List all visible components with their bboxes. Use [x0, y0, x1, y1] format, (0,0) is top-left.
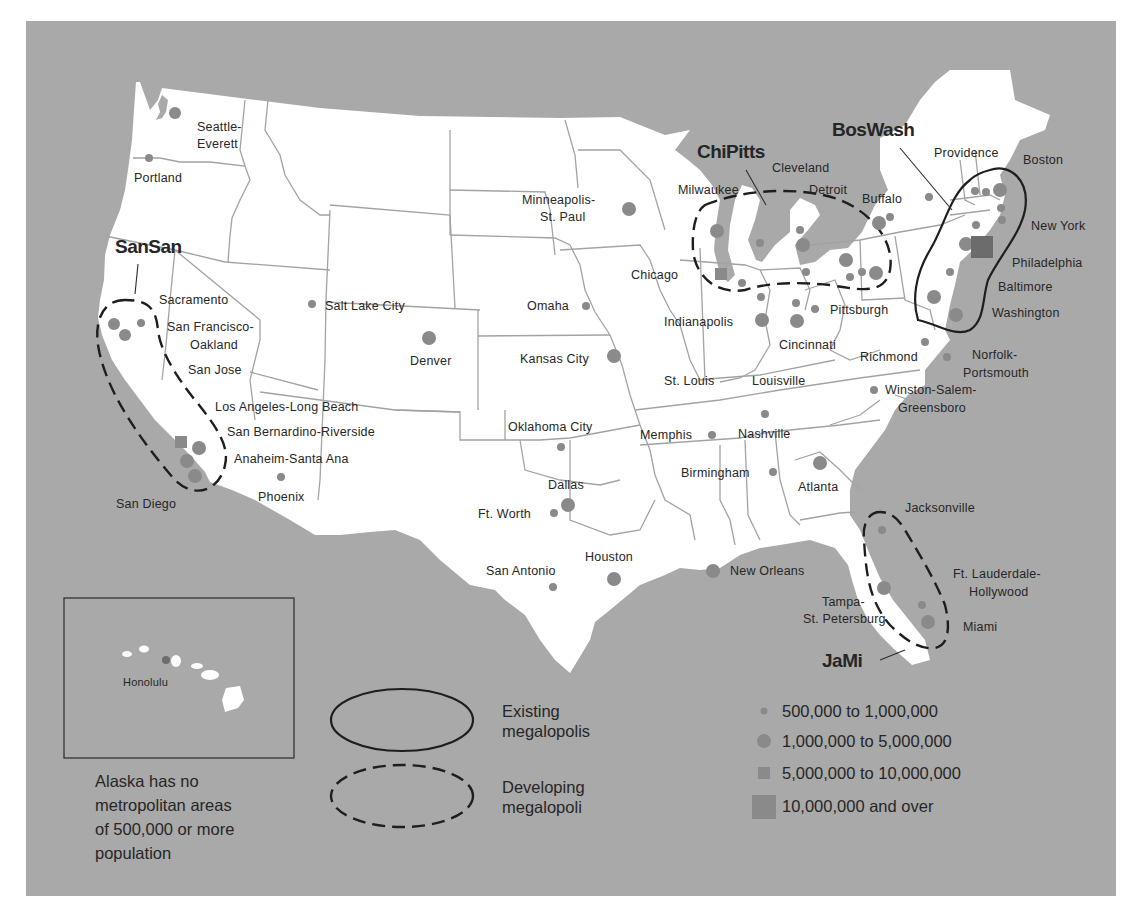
- dot-gary: [738, 279, 746, 287]
- label-st-louis: St. Louis: [664, 374, 714, 388]
- label-chicago: Chicago: [631, 268, 678, 282]
- label-indianapolis: Indianapolis: [664, 315, 733, 329]
- dot-birmingham: [769, 468, 777, 476]
- dot-milwaukee: [710, 224, 724, 238]
- dot-new-york: [971, 236, 993, 258]
- svg-text:of 500,000 or more: of 500,000 or more: [95, 820, 234, 838]
- label-boston: Boston: [1023, 153, 1063, 167]
- label-sf-2: Oakland: [190, 338, 238, 352]
- dot-newark: [959, 237, 973, 251]
- label-seattle-2: Everett: [197, 137, 238, 151]
- label-providence: Providence: [934, 146, 999, 160]
- dot-pittsburgh: [869, 266, 883, 280]
- label-memphis: Memphis: [640, 428, 692, 442]
- dot-miami: [921, 615, 935, 629]
- alaska-note: Alaska has no metropolitan areas of 500,…: [95, 772, 234, 862]
- dot-detroit: [796, 238, 810, 252]
- dot-portland: [145, 154, 153, 162]
- legend-size-4: 10,000,000 and over: [782, 797, 934, 815]
- label-norfolk-2: Portsmouth: [963, 366, 1029, 380]
- legend-developing-line1: Developing: [502, 778, 585, 796]
- label-boswash: BosWash: [832, 119, 914, 140]
- label-sacramento: Sacramento: [159, 293, 228, 307]
- dot-washington: [949, 308, 963, 322]
- label-buffalo: Buffalo: [862, 192, 902, 206]
- dot-buffalo: [872, 216, 886, 230]
- label-la: Los Angeles-Long Beach: [215, 400, 358, 414]
- dot-san-diego: [188, 469, 202, 483]
- dot-nashville: [761, 410, 769, 418]
- label-nashville: Nashville: [738, 427, 791, 441]
- dot-springfield: [982, 188, 990, 196]
- label-portland: Portland: [134, 171, 182, 185]
- dot-louisville: [757, 293, 765, 301]
- label-sf: San Francisco-: [167, 320, 254, 334]
- dot-houston: [607, 572, 621, 586]
- label-honolulu: Honolulu: [123, 676, 168, 688]
- label-baltimore: Baltimore: [998, 280, 1053, 294]
- dot-san-jose: [119, 329, 131, 341]
- legend-existing-symbol: [331, 689, 473, 751]
- label-cleveland: Cleveland: [772, 161, 829, 175]
- legend-developing-symbol: [331, 765, 473, 827]
- label-denver: Denver: [410, 354, 452, 368]
- dot-seattle: [169, 107, 181, 119]
- label-cincinnati: Cincinnati: [779, 338, 836, 352]
- label-jacksonville: Jacksonville: [905, 501, 975, 515]
- dot-toledo: [802, 268, 810, 276]
- dot-minneapolis: [622, 202, 636, 216]
- label-tampa-2: St. Petersburg: [803, 612, 886, 626]
- label-winston: Winston-Salem-: [885, 383, 977, 397]
- dot-baltimore: [927, 290, 941, 304]
- label-detroit: Detroit: [809, 183, 848, 197]
- label-ft-lauderdale: Ft. Lauderdale-: [953, 567, 1041, 581]
- us-map: SanSan ChiPitts BosWash JaMi Seattle- Ev…: [0, 0, 1135, 912]
- label-richmond: Richmond: [860, 350, 918, 364]
- dot-norfolk: [943, 353, 951, 361]
- legend-small-square: [758, 767, 770, 779]
- label-atlanta: Atlanta: [798, 480, 838, 494]
- label-san-diego: San Diego: [116, 497, 176, 511]
- dot-atlanta: [813, 456, 827, 470]
- size-legend: 500,000 to 1,000,000 1,000,000 to 5,000,…: [752, 702, 961, 819]
- legend-developing-line2: megalopoli: [502, 798, 582, 816]
- label-anaheim: Anaheim-Santa Ana: [234, 452, 349, 466]
- legend-small-circle: [761, 708, 768, 715]
- svg-text:population: population: [95, 844, 171, 862]
- dot-youngstown: [858, 268, 866, 276]
- dot-kansas-city: [607, 349, 621, 363]
- dot-memphis: [708, 431, 716, 439]
- dot-bridgeport: [998, 216, 1006, 224]
- label-dallas: Dallas: [548, 478, 584, 492]
- label-washington: Washington: [992, 306, 1060, 320]
- label-sb: San Bernardino-Riverside: [227, 425, 375, 439]
- dot-flint: [796, 226, 804, 234]
- dot-tampa: [877, 581, 891, 595]
- dot-san-bernardino: [192, 441, 206, 455]
- label-philadelphia: Philadelphia: [1012, 256, 1083, 270]
- label-new-orleans: New Orleans: [730, 564, 804, 578]
- dot-omaha: [582, 302, 590, 310]
- dot-ft-lauderdale: [918, 601, 926, 609]
- dot-dallas: [561, 498, 575, 512]
- outline-legend: Existing megalopolis Developing megalopo…: [331, 689, 590, 827]
- dot-allentown: [946, 268, 954, 276]
- dot-salt-lake-city: [308, 300, 316, 308]
- dot-sacramento: [137, 319, 145, 327]
- dot-oklahoma-city: [557, 443, 565, 451]
- dot-albany: [925, 193, 933, 201]
- label-minneapolis-2: St. Paul: [540, 210, 585, 224]
- dot-grand-rapids: [756, 239, 764, 247]
- label-phoenix: Phoenix: [258, 490, 305, 504]
- legend-existing-line1: Existing: [502, 702, 560, 720]
- svg-text:Alaska has no: Alaska has no: [95, 772, 199, 790]
- label-milwaukee: Milwaukee: [678, 183, 739, 197]
- legend-size-2: 1,000,000 to 5,000,000: [782, 732, 952, 750]
- label-slc: Salt Lake City: [325, 299, 405, 313]
- dot-ft-worth: [550, 509, 558, 517]
- label-san-jose: San Jose: [188, 363, 242, 377]
- label-houston: Houston: [585, 550, 633, 564]
- dot-cleveland: [839, 253, 853, 267]
- label-sansan: SanSan: [115, 236, 182, 257]
- legend-large-circle: [757, 734, 771, 748]
